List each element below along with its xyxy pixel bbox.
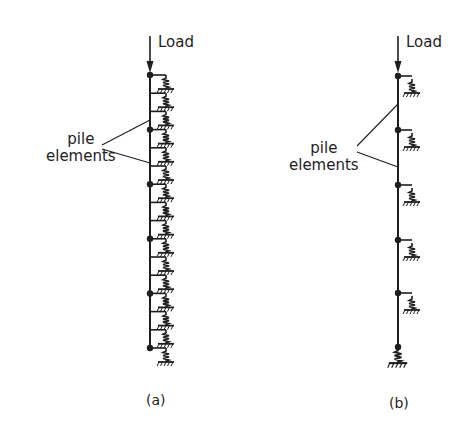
annotation-leaders-b: [357, 104, 398, 167]
pile-label-line1-b: pile: [289, 140, 359, 157]
springs-b: [388, 76, 420, 368]
pile-label-line1-a: pile: [46, 131, 116, 148]
caption-b: (b): [389, 395, 409, 411]
pile-label-line2-a: elements: [46, 148, 116, 165]
load-label-a: Load: [158, 33, 194, 51]
load-arrow-b: [395, 36, 402, 73]
pile-model-diagram: [0, 0, 475, 442]
panel-b: [357, 36, 420, 368]
load-arrow-a: [147, 36, 154, 73]
caption-a: (a): [146, 392, 166, 408]
load-label-b: Load: [406, 33, 442, 51]
pile-label-line2-b: elements: [289, 157, 359, 174]
panel-a: [102, 36, 174, 366]
pile-elements-label-a: pile elements: [46, 131, 116, 165]
springs-a: [150, 75, 174, 366]
pile-elements-label-b: pile elements: [289, 140, 359, 174]
